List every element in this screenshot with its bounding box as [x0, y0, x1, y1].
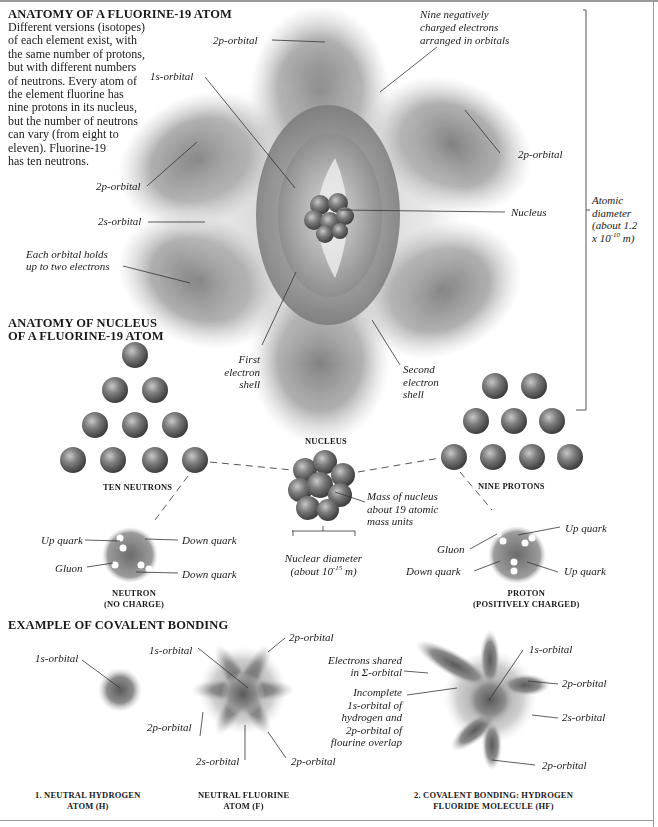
label-line: hydrogen and	[316, 711, 402, 724]
label-part: m)	[342, 565, 356, 577]
fluorine-2p-orbital-bottom-label: 2p-orbital	[291, 755, 336, 768]
label-part: x 10	[592, 232, 611, 244]
label-atomic-diameter: Atomic diameter (about 1.2 x 10-10 m)	[592, 194, 637, 244]
label-nuclear-diameter: Nuclear diameter (about 10-15 m)	[281, 552, 366, 577]
label-line: First	[218, 353, 260, 366]
caption-line: (NO CHARGE)	[104, 599, 164, 610]
label-line: electron	[403, 376, 439, 389]
label-exponent: -15	[333, 564, 342, 572]
caption-line: 1. NEUTRAL HYDROGEN	[35, 790, 141, 801]
label-line: Second	[403, 363, 439, 376]
neutron-particles	[60, 342, 208, 473]
fluorine-atom-graphic	[191, 638, 295, 760]
label-line: Nuclear diameter	[281, 552, 366, 565]
proton-caption: PROTON (POSITIVELY CHARGED)	[473, 588, 580, 610]
fluorine-caption: NEUTRAL FLUORINE ATOM (F)	[198, 790, 289, 812]
label-part: (about 10	[290, 565, 332, 577]
hf-caption: 2. COVALENT BONDING: HYDROGEN FLUORIDE M…	[414, 790, 573, 812]
hf-2p-orbital-right-label: 2p-orbital	[562, 677, 607, 690]
label-line: x 10-10 m)	[592, 232, 637, 245]
fluorine-2p-orbital-left-label: 2p-orbital	[147, 721, 192, 734]
label-2p-orbital-top: 2p-orbital	[213, 34, 258, 47]
neutron-up-quark-label: Up quark	[41, 534, 83, 547]
caption-line: NEUTRON	[104, 588, 164, 599]
nucleus-cluster	[288, 450, 355, 521]
label-line: diameter	[592, 207, 637, 220]
label-first-electron-shell: First electron shell	[218, 353, 260, 391]
label-line: shell	[218, 378, 260, 391]
label-second-electron-shell: Second electron shell	[403, 363, 439, 401]
description-line: of each element exist, with	[8, 34, 208, 47]
description-line: the same number of protons,	[8, 48, 208, 61]
label-part: m)	[620, 232, 634, 244]
description-line: eleven). Fluorine-19	[8, 142, 208, 155]
label-line: Electrons shared	[322, 654, 402, 666]
label-line: Nine negatively	[420, 8, 509, 21]
description-line: has ten neutrons.	[8, 155, 208, 168]
fluorine-2s-orbital-label: 2s-orbital	[196, 755, 239, 768]
neutron-down-quark-label-2: Down quark	[182, 568, 237, 581]
proton-up-quark-label-1: Up quark	[565, 522, 607, 535]
label-2s-orbital: 2s-orbital	[98, 215, 141, 228]
label-line: (about 1.2	[592, 219, 637, 232]
label-nucleus: Nucleus	[511, 206, 546, 219]
label-line: Mass of nucleus	[367, 490, 439, 503]
caption-line: (POSITIVELY CHARGED)	[473, 599, 580, 610]
description-line: nine protons in its nucleus,	[8, 101, 208, 114]
label-mass-of-nucleus: Mass of nucleus about 19 atomic mass uni…	[367, 490, 439, 528]
caption-line: PROTON	[473, 588, 580, 599]
label-line: flourine overlap	[316, 736, 402, 749]
hf-2p-orbital-bottom-label: 2p-orbital	[542, 759, 587, 772]
neutron-caption: NEUTRON (NO CHARGE)	[104, 588, 164, 610]
label-line: electron	[218, 366, 260, 379]
description-line: the element fluorine has	[8, 88, 208, 101]
label-line: up to two electrons	[26, 260, 110, 272]
label-line: about 19 atomic	[367, 503, 439, 516]
neutron-detail	[85, 527, 178, 583]
description-line: but the number of neutrons	[8, 115, 208, 128]
neutron-gluon-label: Gluon	[55, 562, 83, 575]
label-line: 1s-orbital of	[316, 699, 402, 712]
label-line: (about 10-15 m)	[281, 565, 366, 578]
description-line: can vary (from eight to	[8, 128, 208, 141]
label-2p-orbital-right: 2p-orbital	[518, 148, 563, 161]
label-line: mass units	[367, 515, 439, 528]
hydrogen-1s-orbital-label: 1s-orbital	[35, 652, 78, 665]
hf-1s-orbital-label: 1s-orbital	[529, 643, 572, 656]
label-line: Each orbital holds	[26, 248, 110, 260]
bonding-section-title: EXAMPLE OF COVALENT BONDING	[8, 619, 228, 632]
nucleus-section-title: ANATOMY OF NUCLEUS OF A FLUORINE-19 ATOM	[8, 317, 164, 343]
label-line: 2p-orbital of	[316, 724, 402, 737]
label-1s-orbital: 1s-orbital	[150, 70, 193, 83]
hydrogen-atom-graphic	[82, 660, 142, 712]
label-exponent: -10	[611, 231, 620, 239]
atomic-diameter-bracket	[576, 10, 590, 410]
hydrogen-caption: 1. NEUTRAL HYDROGEN ATOM (H)	[35, 790, 141, 812]
label-nine-electrons: Nine negatively charged electrons arrang…	[420, 8, 509, 47]
label-2p-orbital-left: 2p-orbital	[96, 180, 141, 193]
label-line: Atomic	[592, 194, 637, 207]
caption-line: 2. COVALENT BONDING: HYDROGEN	[414, 790, 573, 801]
proton-up-quark-label-2: Up quark	[564, 565, 606, 578]
proton-detail	[470, 526, 560, 584]
nine-protons-caption: NINE PROTONS	[478, 481, 545, 492]
proton-particles	[441, 373, 583, 470]
neutron-down-quark-label-1: Down quark	[182, 534, 237, 547]
caption-line: ATOM (H)	[35, 801, 141, 812]
label-each-orbital: Each orbital holds up to two electrons	[26, 248, 110, 272]
nucleus-caption: NUCLEUS	[305, 436, 347, 447]
atom-description: Different versions (isotopes) of each el…	[8, 21, 208, 168]
label-line: shell	[403, 388, 439, 401]
proton-gluon-label: Gluon	[437, 543, 465, 556]
fluorine-2p-orbital-top-label: 2p-orbital	[289, 631, 334, 644]
hf-2s-orbital-label: 2s-orbital	[562, 711, 605, 724]
fluorine-1s-orbital-label: 1s-orbital	[149, 644, 192, 657]
label-line: arranged in orbitals	[420, 34, 509, 47]
caption-line: NEUTRAL FLUORINE	[198, 790, 289, 801]
description-line: Different versions (isotopes)	[8, 21, 208, 34]
title-line: OF A FLUORINE-19 ATOM	[8, 330, 164, 343]
hf-electrons-shared-label: Electrons shared in Σ-orbital	[322, 654, 402, 678]
hf-incomplete-overlap-label: Incomplete 1s-orbital of hydrogen and 2p…	[316, 686, 402, 749]
label-line: charged electrons	[420, 21, 509, 34]
ten-neutrons-caption: TEN NEUTRONS	[103, 482, 172, 493]
